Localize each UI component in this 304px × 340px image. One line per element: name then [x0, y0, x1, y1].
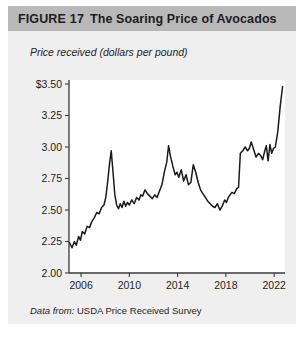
- figure-card: FIGURE17The Soaring Price of Avocados Pr…: [8, 6, 296, 324]
- y-tick-label: 2.50: [42, 204, 63, 216]
- y-tick-label: 2.00: [42, 267, 63, 279]
- source-text: USDA Price Received Survey: [77, 305, 202, 316]
- x-tick-label: 2018: [214, 279, 238, 291]
- chart-plot-area: 2.002.252.502.753.003.25$3.5020062010201…: [8, 58, 296, 298]
- figure-header-bar: FIGURE17The Soaring Price of Avocados: [8, 6, 296, 31]
- figure-number: 17: [70, 12, 84, 26]
- price-line-chart: 2.002.252.502.753.003.25$3.5020062010201…: [8, 58, 296, 298]
- figure-title: The Soaring Price of Avocados: [90, 12, 277, 26]
- y-axis-label: Price received (dollars per pound): [30, 46, 188, 58]
- y-tick-label: 3.00: [42, 141, 63, 153]
- y-tick-label: 3.25: [42, 109, 63, 121]
- x-tick-label: 2014: [166, 279, 190, 291]
- y-tick-label: 2.75: [42, 172, 63, 184]
- source-lead: Data from:: [30, 305, 74, 316]
- figure-header-text: FIGURE17The Soaring Price of Avocados: [8, 12, 277, 26]
- source-note: Data from: USDA Price Received Survey: [30, 305, 202, 316]
- x-tick-label: 2022: [262, 279, 286, 291]
- y-tick-label: $3.50: [36, 78, 62, 90]
- x-tick-label: 2010: [118, 279, 142, 291]
- y-tick-label: 2.25: [42, 235, 63, 247]
- figure-label: FIGURE: [18, 12, 66, 26]
- x-tick-label: 2006: [69, 279, 93, 291]
